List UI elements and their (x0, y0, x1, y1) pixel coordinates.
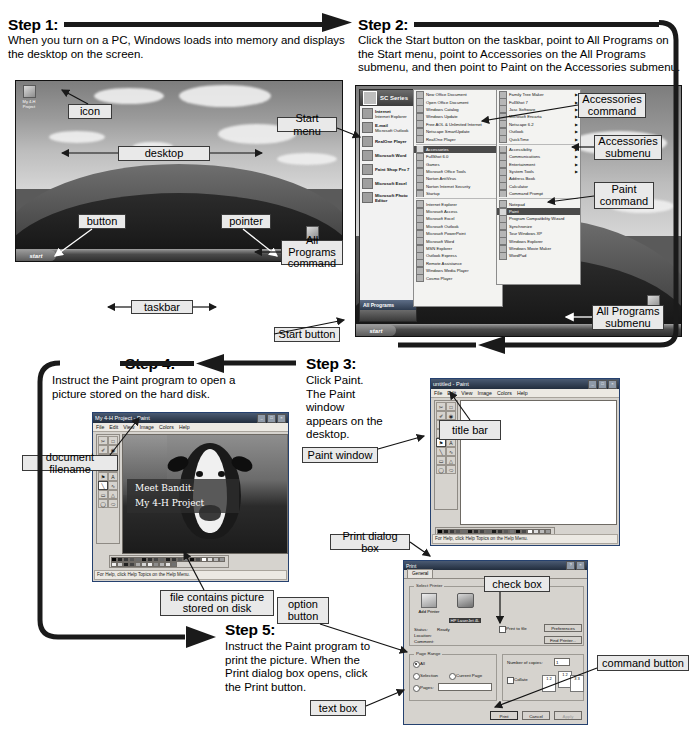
start-menu-pinned-item[interactable]: Microsoft Excel (362, 178, 413, 189)
menu-item[interactable]: Microsoft Word (414, 237, 502, 244)
menu-image[interactable]: Image (477, 390, 491, 396)
menu-item[interactable]: Microsoft PowerPoint (414, 230, 502, 237)
menu-item[interactable]: Microsoft Encarta▶ (497, 113, 580, 120)
start-menu-pinned-item[interactable]: Microsoft Photo Editor (362, 192, 413, 203)
close-button[interactable]: × (608, 380, 617, 389)
menu-item[interactable]: Microsoft Office Tools▶ (414, 168, 502, 175)
start-menu-pinned-item[interactable]: Microsoft Word (362, 150, 413, 161)
current-page-radio[interactable] (449, 673, 456, 680)
picture-canvas[interactable]: Meet Bandit. My 4-H Project (122, 434, 288, 554)
menu-image[interactable]: Image (139, 424, 153, 430)
menu-view[interactable]: View (123, 424, 134, 430)
tab-general[interactable]: General (407, 569, 433, 578)
paint-tool[interactable]: ✐ (436, 411, 446, 420)
pages-textbox[interactable] (438, 683, 492, 691)
menu-item[interactable]: Windows Media Player (414, 267, 502, 274)
minimize-button[interactable]: _ (257, 414, 266, 423)
menu-item[interactable]: Accessibility▶ (497, 146, 580, 153)
maximize-button[interactable]: □ (267, 414, 276, 423)
title-bar[interactable]: untitled - Paint _ □ × (431, 379, 619, 389)
start-menu-pinned-item[interactable]: InternetInternet Explorer (362, 108, 413, 119)
menu-item[interactable]: Microsoft Outlook (414, 223, 502, 230)
paint-tool[interactable]: ╲ (436, 447, 446, 456)
paint-tool[interactable]: ✂ (98, 436, 108, 445)
start-menu-pinned-item[interactable]: Paint Shop Pro 7 (362, 164, 413, 175)
start-button[interactable]: start (16, 250, 56, 261)
color-swatch[interactable] (219, 557, 225, 562)
menu-item[interactable]: Calculator (497, 183, 580, 190)
menu-item[interactable]: Outlook Express (414, 252, 502, 259)
menu-item[interactable]: Notepad (497, 200, 580, 207)
menu-item[interactable]: Games▶ (414, 161, 502, 168)
paint-tool[interactable]: ⬭ (108, 499, 118, 508)
menu-item[interactable]: Family Tree Maker▶ (497, 91, 580, 98)
tool-palette[interactable]: ✂□✐◉✎⌕╱⨁⚑A╲∿▭△◯⬭ (434, 400, 458, 510)
menu-item[interactable]: MSN Explorer (414, 245, 502, 252)
all-programs-button[interactable]: All Programs (360, 300, 416, 310)
paint-tool[interactable]: □ (108, 436, 118, 445)
paint-tool[interactable]: ╲ (98, 481, 108, 490)
menu-item[interactable]: Cosmo Player (414, 274, 502, 281)
color-swatch[interactable] (171, 562, 177, 567)
menu-item[interactable]: Norton AntiVirus▶ (414, 175, 502, 182)
menu-item[interactable]: Windows Explorer (497, 237, 580, 244)
print-to-file-checkbox[interactable] (499, 626, 506, 633)
copies-spinner[interactable]: 1 (554, 658, 570, 666)
paint-tool[interactable]: △ (108, 490, 118, 499)
menu-item[interactable]: WordPad (497, 252, 580, 259)
help-button[interactable]: ? (566, 561, 575, 570)
menu-item[interactable]: Command Prompt (497, 190, 580, 197)
paint-tool[interactable]: ⬭ (446, 465, 456, 474)
paint-tool[interactable]: ◯ (436, 465, 446, 474)
menu-item[interactable]: Open Office Document (414, 98, 502, 105)
paint-tool[interactable]: ▭ (98, 490, 108, 499)
paint-tool[interactable]: ✂ (436, 402, 446, 411)
menu-file[interactable]: File (434, 390, 442, 396)
cancel-button[interactable]: Cancel (522, 711, 550, 720)
menu-item[interactable]: Free AOL & Unlimited Internet (414, 121, 502, 128)
printer-item[interactable]: HP LaserJet 4L (448, 593, 482, 626)
start-menu[interactable]: SC Series InternetInternet ExplorerE-mai… (359, 89, 417, 322)
minimize-button[interactable]: _ (588, 380, 597, 389)
menu-item[interactable]: New Office Document (414, 91, 502, 98)
paint-tool[interactable]: △ (446, 456, 456, 465)
color-palette[interactable] (109, 555, 229, 568)
paint-window-untitled[interactable]: untitled - Paint _ □ × FileEditViewImage… (430, 378, 620, 546)
menu-item[interactable]: Jasc Software▶ (497, 106, 580, 113)
paint-tool[interactable]: ◉ (446, 411, 456, 420)
menu-item[interactable]: Netscape SmartUpdate (414, 128, 502, 135)
start-menu-pinned-item[interactable]: RealOne Player (362, 136, 413, 147)
all-radio[interactable] (413, 661, 420, 668)
desktop-icon-project[interactable]: My 4-H Project (22, 85, 36, 109)
menu-item[interactable]: Netscape 6.2▶ (497, 121, 580, 128)
selection-radio[interactable] (413, 673, 420, 680)
menu-file[interactable]: File (96, 424, 104, 430)
menu-item[interactable]: Entertainment▶ (497, 161, 580, 168)
dialog-controls[interactable]: ? × (566, 561, 585, 570)
menu-bar[interactable]: FileEditViewImageColorsHelp (93, 423, 288, 432)
paint-tool[interactable]: ◯ (98, 499, 108, 508)
accessories-submenu[interactable]: Family Tree Maker▶FullShot 7▶Jasc Softwa… (496, 89, 581, 285)
menu-item[interactable]: QuickTime▶ (497, 135, 580, 142)
menu-item[interactable]: Accessories▶ (414, 146, 502, 153)
menu-item[interactable]: FullShot 6.0▶ (414, 153, 502, 160)
paint-window-project[interactable]: My 4-H Project - Paint _ □ × FileEditVie… (92, 412, 289, 582)
menu-item[interactable]: Address Book (497, 175, 580, 182)
menu-help[interactable]: Help (517, 390, 528, 396)
find-printer-button[interactable]: Find Printer... (544, 636, 582, 644)
menu-item[interactable]: Norton Internet Security▶ (414, 183, 502, 190)
maximize-button[interactable]: □ (598, 380, 607, 389)
menu-item[interactable]: FullShot 7▶ (497, 98, 580, 105)
menu-colors[interactable]: Colors (497, 390, 512, 396)
menu-item[interactable]: Startup▶ (414, 190, 502, 197)
menu-colors[interactable]: Colors (159, 424, 174, 430)
menu-item[interactable]: System Tools▶ (497, 168, 580, 175)
menu-bar[interactable]: FileEditViewImageColorsHelp (431, 389, 619, 398)
menu-item[interactable]: RealOne Player (414, 135, 502, 142)
menu-item[interactable]: Communications▶ (497, 153, 580, 160)
menu-item[interactable]: Windows Update (414, 113, 502, 120)
collate-checkbox[interactable] (507, 677, 514, 684)
menu-edit[interactable]: Edit (447, 390, 456, 396)
menu-item[interactable]: Remote Assistance (414, 260, 502, 267)
pages-radio[interactable] (413, 685, 420, 692)
